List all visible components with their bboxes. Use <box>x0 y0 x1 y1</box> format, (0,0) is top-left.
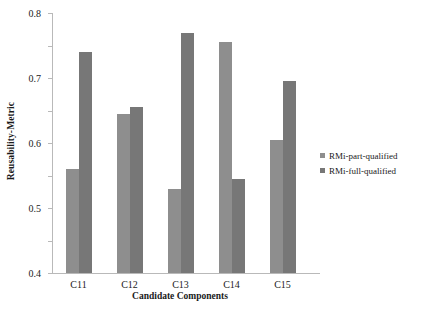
chart-figure: Reusability-Metric 0.80.70.60.50.40.30.2… <box>0 0 430 322</box>
x-axis-tick-label: C12 <box>121 279 138 290</box>
bar <box>79 52 92 273</box>
bar-group <box>104 13 155 273</box>
plot-area: 0.80.70.60.50.40.30.20.10 C11C12C13C14C1… <box>52 13 308 273</box>
legend-label: RMi-full-qualified <box>329 166 396 176</box>
bar <box>270 140 283 273</box>
y-axis-title-text: Reusability-Metric <box>6 102 16 180</box>
y-axis-title: Reusability-Metric <box>2 0 20 282</box>
bar <box>130 107 143 273</box>
bar-group <box>206 13 257 273</box>
legend-item[interactable]: RMi-full-qualified <box>320 164 397 177</box>
bar-group <box>155 13 206 273</box>
bar <box>219 42 232 273</box>
y-axis-tick: 0.4 <box>48 143 52 144</box>
bar <box>66 169 79 273</box>
bar-groups <box>53 13 308 273</box>
y-axis-tick: 0 <box>48 273 52 274</box>
x-axis-line <box>52 273 320 274</box>
bar <box>283 81 296 273</box>
legend-item[interactable]: RMi-part-qualified <box>320 149 397 162</box>
legend-label: RMi-part-qualified <box>329 151 397 161</box>
y-axis-tick-label: 0.5 <box>29 203 42 214</box>
x-axis-tick-label: C15 <box>274 279 291 290</box>
x-axis-tick-label: C13 <box>172 279 189 290</box>
y-axis-tick: 0.1 <box>48 241 52 242</box>
bar <box>181 33 194 274</box>
x-axis-title: Candidate Components <box>52 291 308 301</box>
y-axis-tick: 0.3 <box>48 176 52 177</box>
bar <box>168 189 181 274</box>
y-axis-tick: 0.8 <box>48 13 52 14</box>
y-axis-tick-label: 0.4 <box>29 268 42 279</box>
y-axis-tick: 0.2 <box>48 208 52 209</box>
x-axis-tick-label: C14 <box>223 279 240 290</box>
bar-group <box>53 13 104 273</box>
chart-legend: RMi-part-qualifiedRMi-full-qualified <box>320 149 397 179</box>
y-axis-tick-label: 0.6 <box>29 138 42 149</box>
y-axis-tick: 0.5 <box>48 111 52 112</box>
y-axis-tick-label: 0.7 <box>29 73 42 84</box>
bar-group <box>257 13 308 273</box>
x-axis-tick-label: C11 <box>70 279 86 290</box>
y-axis-tick-label: 0.8 <box>29 8 42 19</box>
legend-swatch-icon <box>320 153 325 158</box>
bar <box>117 114 130 273</box>
y-axis-tick: 0.7 <box>48 46 52 47</box>
legend-swatch-icon <box>320 168 325 173</box>
y-axis-tick: 0.6 <box>48 78 52 79</box>
bar <box>232 179 245 273</box>
